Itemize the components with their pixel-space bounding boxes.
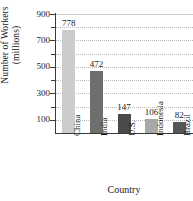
y-axis-tick-label: 100 [24,115,50,124]
y-axis-title-line-1: Number of Workers [0,0,11,100]
x-axis-tick-label: U.S. [128,120,137,136]
bar-value-label: 147 [110,103,138,112]
bar-chart: Number of Workers (millions) 90070050030… [0,0,193,201]
y-axis-tick-label: 700 [24,36,50,45]
x-axis-tick-label: Indonesia [156,101,165,136]
y-axis-tick [50,93,55,94]
y-axis-tick [51,27,55,28]
y-axis-tick [50,40,55,41]
x-axis-tick-label: India [100,118,109,137]
y-axis-tick-label: 300 [24,89,50,98]
x-axis-tick-labels: ChinaIndiaU.S.IndonesiaBrazil [55,134,193,184]
y-axis-tick [51,107,55,108]
bar-value-label: 778 [55,19,83,28]
y-axis-tick [51,54,55,55]
x-axis-tick-label: Brazil [183,114,192,136]
bar-value-label: 472 [82,60,110,69]
y-axis-tick [51,80,55,81]
y-axis-tick [50,67,55,68]
y-axis-tick-label: 900 [24,10,50,19]
y-axis-tick-labels: 900700500300100 [22,0,50,201]
x-axis-tick-label: China [73,115,82,137]
y-axis-tick [50,120,55,121]
y-axis-tick [50,14,55,15]
y-axis-tick-label: 500 [24,62,50,71]
x-axis-title: Country [55,184,193,195]
y-axis-title-line-2: (millions) [11,0,22,100]
